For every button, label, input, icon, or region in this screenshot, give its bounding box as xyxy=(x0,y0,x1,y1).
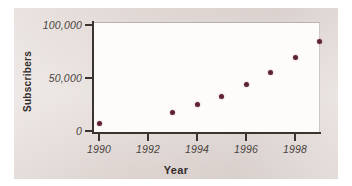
x-tick-label-1992: 1992 xyxy=(126,143,170,155)
y-axis-title: Subscribers xyxy=(22,32,33,132)
x-axis-title: Year xyxy=(0,164,352,176)
y-tick-mark xyxy=(85,24,93,26)
y-tick-mark xyxy=(85,77,93,79)
data-point xyxy=(195,102,200,107)
y-tick-label-100000: 100,000 xyxy=(12,19,82,31)
x-tick-label-1996: 1996 xyxy=(224,143,268,155)
data-point xyxy=(244,82,249,87)
x-tick-label-1990: 1990 xyxy=(77,143,121,155)
x-tick-mark xyxy=(294,134,296,141)
data-point xyxy=(293,55,298,60)
x-tick-mark xyxy=(196,134,198,141)
x-tick-label-1998: 1998 xyxy=(273,143,317,155)
x-axis-line xyxy=(92,132,321,134)
data-point xyxy=(97,121,102,126)
chart-figure: 100,000 50,000 0 1990 1992 1994 1996 199… xyxy=(0,0,352,186)
x-tick-mark xyxy=(147,134,149,141)
x-tick-mark xyxy=(245,134,247,141)
data-point xyxy=(219,94,224,99)
plot-area xyxy=(93,22,320,133)
x-tick-mark xyxy=(98,134,100,141)
y-tick-mark xyxy=(85,130,93,132)
x-tick-label-1994: 1994 xyxy=(175,143,219,155)
